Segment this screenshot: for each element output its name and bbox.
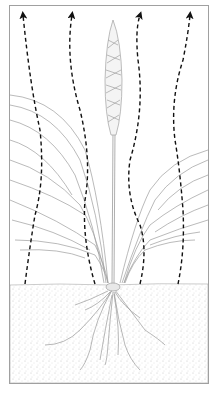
- leaves-right: [120, 150, 208, 283]
- plant-transpiration-figure: [0, 0, 218, 394]
- flower-spike: [105, 20, 122, 135]
- plant-crown: [106, 283, 120, 291]
- arrow-1: [23, 15, 42, 284]
- leaves-left: [10, 95, 108, 283]
- illustration: [0, 0, 218, 394]
- arrow-4: [174, 15, 190, 284]
- arrow-2: [70, 15, 95, 284]
- flower-stem: [112, 130, 115, 285]
